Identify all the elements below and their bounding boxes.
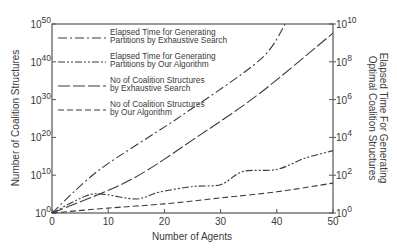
legend-item: Elapsed Time for GeneratingPartitions by… xyxy=(58,27,228,45)
x-tick-label: 10 xyxy=(103,216,115,227)
right-y-tick-label: 108 xyxy=(336,53,352,68)
right-y-tick-label: 1010 xyxy=(336,15,357,30)
legend-item: No of Coalition Structuresby Exhaustive … xyxy=(58,75,205,93)
right-y-tick-label: 104 xyxy=(336,128,352,143)
right-y-axis-label-group: Elapsed Time For GeneratingOptimal Coali… xyxy=(367,53,389,184)
legend-label: by Exhaustive Search xyxy=(110,83,191,93)
legend-item: Elapsed Time for GeneratingPartitions by… xyxy=(58,51,216,69)
chart-container: 01020304050 10010101020103010401050 1001… xyxy=(0,0,397,250)
x-tick-label: 40 xyxy=(271,216,283,227)
left-y-tick-label: 1010 xyxy=(30,166,51,181)
right-y-axis-label-line2: Optimal Coalition Structures xyxy=(367,56,378,181)
legend-label: Partitions by Our Algorithm xyxy=(110,59,209,69)
legend: Elapsed Time for GeneratingPartitions by… xyxy=(58,27,228,117)
x-axis-ticks: 01020304050 xyxy=(49,209,339,227)
right-y-tick-label: 102 xyxy=(336,166,352,181)
right-y-axis-label-line1: Elapsed Time For Generating xyxy=(378,53,389,184)
legend-label: Partitions by Exhaustive Search xyxy=(110,35,228,45)
legend-label: by Our Algorithm xyxy=(110,107,172,117)
series-line-4 xyxy=(52,183,333,213)
left-y-tick-label: 1030 xyxy=(30,91,51,106)
right-y-axis-label: Elapsed Time For GeneratingOptimal Coali… xyxy=(367,53,389,184)
left-y-tick-label: 1050 xyxy=(30,15,51,30)
left-y-axis-label: Number of Coalition Structures xyxy=(10,50,21,187)
legend-item: No of Coalition Structuresby Our Algorit… xyxy=(58,99,205,117)
left-y-tick-label: 1040 xyxy=(30,53,51,68)
series-line-2 xyxy=(52,151,333,213)
right-y-tick-label: 106 xyxy=(336,91,352,106)
left-y-tick-label: 1020 xyxy=(30,128,51,143)
x-tick-label: 20 xyxy=(159,216,171,227)
x-axis-label: Number of Agents xyxy=(152,231,232,242)
x-tick-label: 0 xyxy=(49,216,55,227)
x-tick-label: 30 xyxy=(215,216,227,227)
right-y-tick-label: 100 xyxy=(336,204,352,219)
chart-svg: 01020304050 10010101020103010401050 1001… xyxy=(0,0,397,250)
